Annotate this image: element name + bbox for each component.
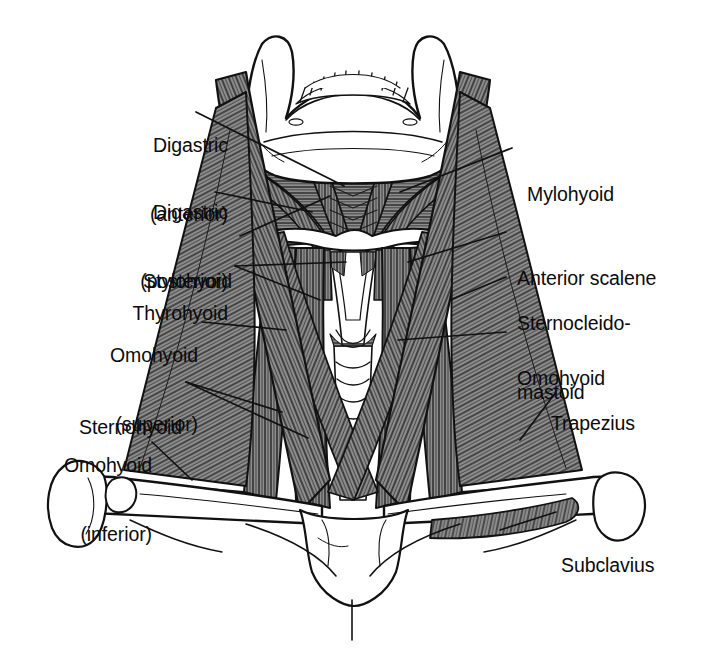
mandible xyxy=(244,36,461,183)
label-trapezius: Trapezius xyxy=(551,366,635,481)
label-line: Digastric xyxy=(0,201,228,224)
label-line: Omohyoid xyxy=(0,454,152,477)
label-line: Digastric xyxy=(0,134,228,157)
label-line: Trapezius xyxy=(551,412,635,435)
anatomy-figure: Digastric (anterior) Digastric (posterio… xyxy=(0,0,706,649)
label-line: Omohyoid xyxy=(0,344,198,367)
label-line: (inferior) xyxy=(0,523,152,546)
label-line: Mylohyoid xyxy=(527,183,614,206)
label-omohyoid-inferior: Omohyoid (inferior) xyxy=(0,408,152,592)
sternum xyxy=(300,510,408,640)
label-subclavius: Subclavius xyxy=(561,508,654,623)
label-line: Subclavius xyxy=(561,554,654,577)
